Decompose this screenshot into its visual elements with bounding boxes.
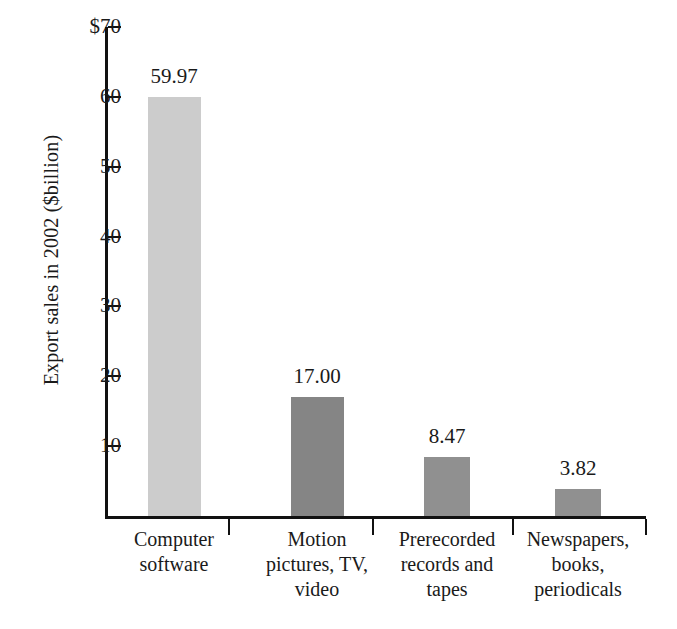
- bar[interactable]: [555, 489, 601, 516]
- category-label-line: periodicals: [510, 577, 646, 602]
- x-axis-category-label: Newspapers,books,periodicals: [510, 527, 646, 602]
- bar-value-label: 3.82: [518, 458, 638, 479]
- x-axis-line: [105, 516, 646, 519]
- category-label-line: records and: [379, 552, 515, 577]
- category-label-line: Motion: [249, 527, 385, 552]
- x-axis-category-label: Motionpictures, TV,video: [249, 527, 385, 602]
- x-axis-category-label: Prerecordedrecords andtapes: [379, 527, 515, 602]
- bar[interactable]: [424, 457, 470, 516]
- category-label-line: Computer: [106, 527, 242, 552]
- category-label-line: books,: [510, 552, 646, 577]
- category-label-line: video: [249, 577, 385, 602]
- bars-layer: 59.9717.008.473.82: [0, 0, 677, 516]
- x-axis-category-label: Computersoftware: [106, 527, 242, 577]
- bar[interactable]: [291, 397, 344, 516]
- bar-value-label: 17.00: [257, 366, 377, 387]
- category-label-line: Prerecorded: [379, 527, 515, 552]
- category-label-line: pictures, TV,: [249, 552, 385, 577]
- bar-value-label: 8.47: [387, 426, 507, 447]
- bar-value-label: 59.97: [114, 66, 234, 87]
- category-label-line: Newspapers,: [510, 527, 646, 552]
- category-label-line: software: [106, 552, 242, 577]
- bar[interactable]: [148, 97, 201, 516]
- bar-chart: Export sales in 2002 ($billion) $7060504…: [0, 0, 677, 629]
- category-label-line: tapes: [379, 577, 515, 602]
